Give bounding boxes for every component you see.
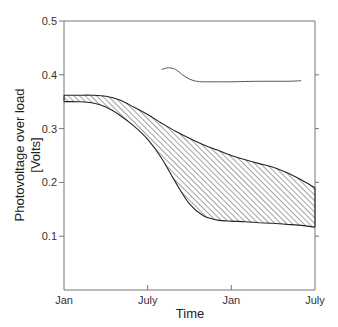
- upper-line-series: [162, 68, 302, 82]
- x-tick-label: Jan: [222, 294, 240, 306]
- y-axis-title-line-1: Photovoltage over load: [12, 89, 27, 222]
- y-axis-title-line-2: [Volts]: [28, 137, 43, 172]
- y-tick-label: 0.5: [42, 15, 57, 27]
- y-tick-label: 0.4: [42, 69, 57, 81]
- series-layer: [64, 68, 315, 227]
- y-tick-label: 0.1: [42, 230, 57, 242]
- x-tick-label: July: [305, 294, 325, 306]
- y-axis-title: Photovoltage over load [Volts]: [12, 89, 43, 222]
- chart: 0.10.20.30.40.5 JanJulyJanJuly Time Phot…: [0, 0, 338, 327]
- x-axis-title: Time: [176, 306, 204, 321]
- x-tick-label: July: [138, 294, 158, 306]
- y-tick-label: 0.3: [42, 123, 57, 135]
- x-axis-ticks: JanJulyJanJuly: [55, 285, 325, 306]
- x-tick-label: Jan: [55, 294, 73, 306]
- y-tick-label: 0.2: [42, 176, 57, 188]
- hatched-band-fill: [64, 95, 315, 227]
